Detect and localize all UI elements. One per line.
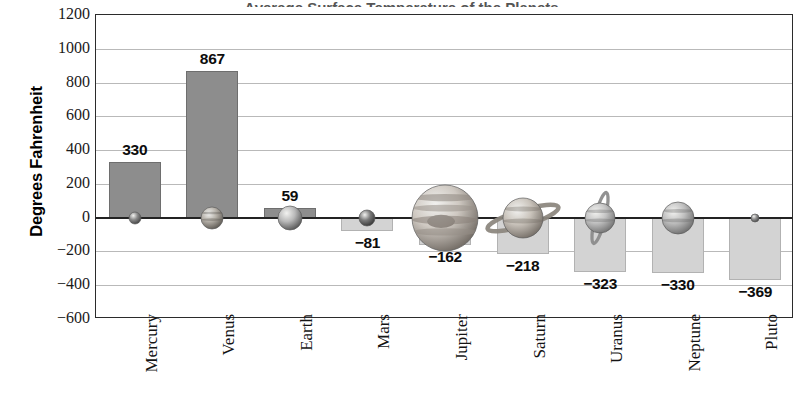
y-axis-tick-labels: 120010008006004002000−200−400−600 bbox=[34, 0, 90, 412]
planet-neptune-icon bbox=[648, 188, 708, 248]
value-label-pluto: −369 bbox=[718, 283, 792, 301]
y-tick--400: −400 bbox=[34, 276, 90, 292]
value-label-neptune: −330 bbox=[641, 276, 715, 294]
planet-saturn-icon bbox=[489, 184, 557, 252]
y-tick-200: 200 bbox=[34, 175, 90, 191]
value-label-mars: −81 bbox=[330, 234, 404, 252]
y-tick--600: −600 bbox=[34, 310, 90, 326]
x-label-mars: Mars bbox=[374, 314, 394, 406]
x-label-jupiter: Jupiter bbox=[452, 314, 472, 406]
x-axis-category-labels: MercuryVenusEarthMarsJupiterSaturnUranus… bbox=[95, 320, 793, 412]
x-label-saturn: Saturn bbox=[530, 314, 550, 406]
x-label-pluto: Pluto bbox=[762, 314, 782, 406]
y-tick-1200: 1200 bbox=[34, 6, 90, 22]
value-label-jupiter: −162 bbox=[408, 248, 482, 266]
planet-venus-icon bbox=[187, 193, 237, 243]
y-tick-400: 400 bbox=[34, 141, 90, 157]
y-tick-800: 800 bbox=[34, 74, 90, 90]
x-label-mercury: Mercury bbox=[142, 314, 162, 406]
planet-mercury-icon bbox=[115, 198, 155, 238]
x-label-venus: Venus bbox=[219, 314, 239, 406]
value-label-mercury: 330 bbox=[98, 141, 172, 159]
y-tick--200: −200 bbox=[34, 242, 90, 258]
planet-temperature-bar-chart: Average Surface Temperature of the Plane… bbox=[0, 0, 803, 412]
value-label-uranus: −323 bbox=[563, 275, 637, 293]
y-tick-600: 600 bbox=[34, 107, 90, 123]
planet-uranus-icon bbox=[571, 189, 629, 247]
y-tick-1000: 1000 bbox=[34, 40, 90, 56]
y-tick-0: 0 bbox=[34, 209, 90, 225]
value-label-venus: 867 bbox=[175, 50, 249, 68]
planet-pluto-icon bbox=[737, 200, 773, 236]
chart-title-cropped: Average Surface Temperature of the Plane… bbox=[0, 0, 803, 7]
x-label-earth: Earth bbox=[297, 314, 317, 406]
x-label-uranus: Uranus bbox=[607, 314, 627, 406]
x-label-neptune: Neptune bbox=[685, 314, 705, 406]
plot-area: 330 867 59 bbox=[95, 14, 793, 318]
value-label-saturn: −218 bbox=[486, 257, 560, 275]
planet-mars-icon bbox=[345, 196, 389, 240]
value-label-earth: 59 bbox=[253, 187, 327, 205]
